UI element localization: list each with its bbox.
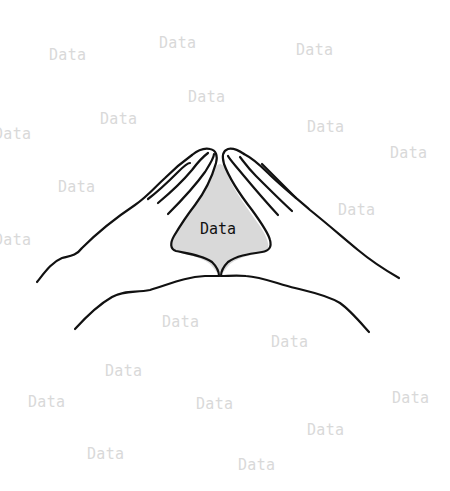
right-hand-outline [244,154,399,278]
right-thumb-outline [221,276,369,332]
image-canvas: DataDataDataDataDataDataDataDataDataData… [0,0,450,491]
hands-triangle-illustration [0,0,450,491]
center-label: Data [200,222,236,237]
left-thumb-outline [75,276,219,329]
left-hand-outline [37,155,192,282]
right-finger-1 [262,164,296,198]
